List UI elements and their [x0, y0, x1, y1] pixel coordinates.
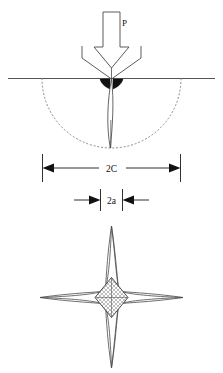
arrowhead-right-2c: [169, 164, 181, 173]
arrowhead-left-2c: [43, 164, 55, 173]
dimension-label-2a: 2a: [107, 196, 117, 206]
dimension-2c: 2C: [43, 154, 181, 182]
median-crack: [108, 79, 113, 148]
arrowhead-right-2a: [123, 196, 135, 205]
dimension-label-2c: 2C: [106, 164, 117, 174]
radial-crack-right-lower-edge: [121, 298, 183, 304]
arrowhead-left-2a: [89, 196, 101, 205]
plastic-lobe-right: [113, 79, 123, 89]
dimension-2a: 2a: [74, 189, 149, 211]
load-label: P: [122, 18, 127, 28]
plan-view: [40, 226, 183, 368]
indentation-fracture-figure: P 2C: [0, 0, 223, 373]
cross-section-view: P: [8, 12, 215, 148]
radial-crack-right-upper-edge: [121, 292, 183, 298]
figure-canvas: P 2C: [0, 0, 223, 373]
plastic-lobe-left: [100, 79, 110, 89]
radial-crack-left-upper-edge: [40, 292, 102, 298]
radial-crack-left-lower-edge: [40, 298, 102, 304]
